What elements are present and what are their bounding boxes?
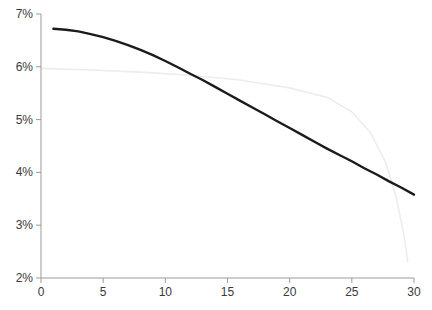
x-tick-label: 0 bbox=[38, 285, 45, 299]
x-tick-label: 25 bbox=[345, 285, 359, 299]
primary-declining-curve bbox=[53, 29, 414, 195]
y-tick-label: 2% bbox=[16, 271, 34, 285]
y-tick-label: 4% bbox=[16, 165, 34, 179]
faint-secondary-curve bbox=[41, 68, 408, 262]
x-tick-label: 10 bbox=[159, 285, 173, 299]
line-chart-canvas: 7%6%5%4%3%2%051015202530 bbox=[0, 0, 432, 310]
x-tick-label: 30 bbox=[407, 285, 421, 299]
y-tick-label: 6% bbox=[16, 60, 34, 74]
y-tick-label: 7% bbox=[16, 7, 34, 21]
axes-lines bbox=[41, 14, 414, 278]
x-tick-label: 20 bbox=[283, 285, 297, 299]
y-tick-label: 5% bbox=[16, 113, 34, 127]
x-tick-label: 5 bbox=[100, 285, 107, 299]
line-chart-figure: 7%6%5%4%3%2%051015202530 bbox=[0, 0, 432, 310]
y-tick-label: 3% bbox=[16, 218, 34, 232]
x-tick-label: 15 bbox=[221, 285, 235, 299]
